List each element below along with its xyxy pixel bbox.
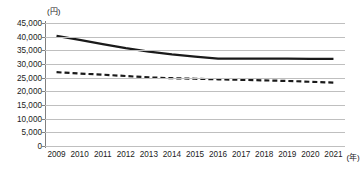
y-axis-tick-mark: [41, 78, 45, 79]
y-axis-tick-label: 5,000: [0, 128, 42, 137]
y-axis-tick-mark: [41, 23, 45, 24]
plot-area: [45, 23, 345, 146]
x-axis-tick-label: 2012: [117, 150, 135, 159]
y-axis-tick-mark: [41, 132, 45, 133]
y-axis-tick-mark: [41, 119, 45, 120]
x-axis-tick-label: 2017: [232, 150, 250, 159]
x-axis-tick-labels: 2009201020112012201320142015201620172018…: [0, 150, 359, 170]
y-axis-tick-labels: 45,00040,00035,00030,00025,00020,00015,0…: [0, 0, 42, 173]
y-axis-tick-label: 40,000: [0, 32, 42, 41]
y-axis-tick-mark: [41, 37, 45, 38]
x-axis-unit-label: (年): [346, 151, 359, 162]
x-axis-tick-label: 2016: [209, 150, 227, 159]
gridline: [45, 50, 345, 51]
x-axis-tick-label: 2021: [324, 150, 342, 159]
x-axis-tick-label: 2011: [94, 150, 112, 159]
series-line-solid: [57, 36, 334, 59]
x-axis-tick-label: 2015: [186, 150, 204, 159]
y-axis-tick-label: 20,000: [0, 87, 42, 96]
y-axis-tick-mark: [41, 64, 45, 65]
y-axis-tick-mark: [41, 105, 45, 106]
x-axis-tick-label: 2009: [47, 150, 65, 159]
gridline: [45, 105, 345, 106]
y-axis-tick-label: 15,000: [0, 101, 42, 110]
x-axis-tick-label: 2020: [301, 150, 319, 159]
y-axis-tick-label: 35,000: [0, 46, 42, 55]
y-axis-tick-label: 25,000: [0, 73, 42, 82]
gridline: [45, 146, 345, 147]
gridline: [45, 78, 345, 79]
gridline: [45, 64, 345, 65]
series-container: [45, 23, 345, 146]
x-axis-tick-label: 2019: [278, 150, 296, 159]
y-axis-tick-mark: [41, 50, 45, 51]
y-axis-tick-mark: [41, 91, 45, 92]
x-axis-tick-label: 2018: [255, 150, 273, 159]
y-axis-unit-label: (円): [47, 5, 60, 16]
gridline: [45, 119, 345, 120]
y-axis-tick-mark: [41, 146, 45, 147]
x-axis-tick-label: 2013: [140, 150, 158, 159]
x-axis-tick-label: 2010: [71, 150, 89, 159]
gridline: [45, 37, 345, 38]
gridline: [45, 23, 345, 24]
y-axis-tick-label: 45,000: [0, 19, 42, 28]
y-axis-tick-label: 30,000: [0, 60, 42, 69]
gridline: [45, 132, 345, 133]
gridline: [45, 91, 345, 92]
y-axis-tick-label: 10,000: [0, 114, 42, 123]
x-axis-tick-label: 2014: [163, 150, 181, 159]
